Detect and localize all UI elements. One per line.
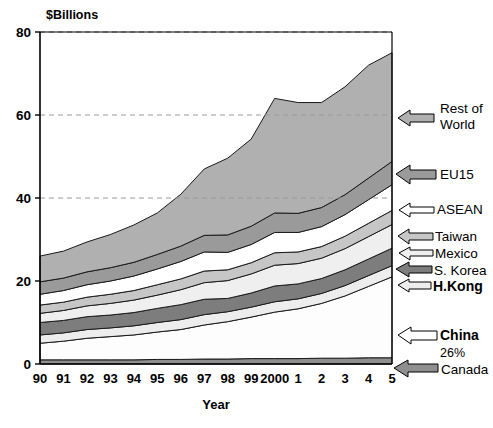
arrow-taiwan (398, 229, 433, 244)
series-label-s-korea: S. Korea (434, 263, 487, 278)
x-tick-label-1999: 99 (244, 371, 258, 386)
arrow-mexico (399, 247, 433, 260)
arrow-china (398, 327, 437, 344)
x-axis-ticks: 90919293949596979899200012345 (33, 371, 396, 386)
x-tick-label-1993: 93 (103, 371, 117, 386)
series-label-china: China (440, 327, 479, 343)
x-tick-label-1990: 90 (33, 371, 47, 386)
y-tick-label-20: 20 (16, 274, 31, 289)
chart-figure: 020406080 $Billions 90919293949596979899… (0, 0, 493, 428)
callout-rest-of-world: Rest of World (398, 101, 483, 132)
x-tick-label-1996: 96 (174, 371, 188, 386)
x-tick-label-2002: 2 (318, 371, 325, 386)
series-label-canada: Canada (441, 362, 489, 377)
x-tick-label-2005: 5 (388, 371, 395, 386)
arrow-s-korea (396, 262, 432, 277)
arrow-h-kong (398, 279, 431, 292)
callout-taiwan: Taiwan (398, 229, 477, 244)
stacked-area-chart: 020406080 $Billions 90919293949596979899… (0, 0, 493, 428)
y-axis-unit-label: $Billions (46, 8, 98, 22)
arrow-eu15 (396, 165, 436, 184)
x-tick-label-1998: 98 (220, 371, 234, 386)
series-label-h-kong: H.Kong (433, 278, 483, 294)
x-tick-label-2004: 4 (365, 371, 373, 386)
x-tick-label-1992: 92 (80, 371, 94, 386)
series-label-rest-of-world-line1: Rest of (440, 101, 483, 116)
x-axis-title: Year (202, 397, 229, 412)
y-axis-ticks: 020406080 (16, 25, 40, 372)
y-tick-label-80: 80 (16, 25, 31, 40)
series-annotation-china-pct: 26% (440, 346, 465, 360)
series-label-asean: ASEAN (437, 202, 483, 217)
arrow-rest-of-world (398, 110, 434, 126)
series-label-mexico: Mexico (435, 246, 478, 261)
series-label-taiwan: Taiwan (435, 229, 477, 244)
callout-s-korea: S. Korea (396, 262, 487, 278)
arrow-asean (399, 203, 434, 217)
callout-canada: Canada (394, 360, 489, 377)
x-tick-label-2001: 1 (295, 371, 302, 386)
x-tick-label-1995: 95 (150, 371, 164, 386)
y-tick-label-60: 60 (16, 108, 31, 123)
y-tick-label-40: 40 (16, 191, 31, 206)
series-label-rest-of-world-line2: World (440, 117, 475, 132)
x-tick-label-1994: 94 (127, 371, 142, 386)
callout-china: China 26% (398, 327, 479, 360)
callout-mexico: Mexico (399, 246, 478, 261)
x-tick-label-2003: 3 (341, 371, 348, 386)
callout-eu15: EU15 (396, 165, 474, 184)
callout-asean: ASEAN (399, 202, 483, 217)
y-tick-label-0: 0 (23, 357, 31, 372)
series-label-eu15: EU15 (440, 167, 474, 182)
arrow-canada (394, 360, 438, 377)
callout-h-kong: H.Kong (398, 278, 483, 294)
x-tick-label-2000: 2000 (260, 371, 289, 386)
x-tick-label-1991: 91 (56, 371, 70, 386)
x-tick-label-1997: 97 (197, 371, 211, 386)
